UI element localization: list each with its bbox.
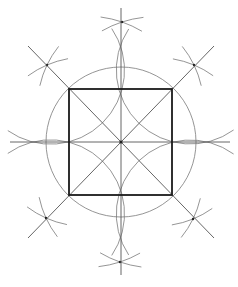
construction-arc-bottom-right — [172, 208, 212, 224]
geometric-diagram — [0, 0, 238, 287]
diagram-svg — [0, 0, 238, 287]
arc-bottom-left — [8, 140, 125, 256]
construction-arc-bottom-left — [27, 207, 67, 225]
construction-arc-top-left — [28, 59, 68, 76]
construction-point-bottom-right — [192, 218, 194, 220]
center-point — [119, 140, 122, 143]
construction-arc-top-right — [182, 46, 201, 85]
arc-top-left — [8, 29, 125, 145]
construction-arc-top-left — [40, 46, 59, 85]
construction-arc-bottom-right — [181, 198, 200, 237]
